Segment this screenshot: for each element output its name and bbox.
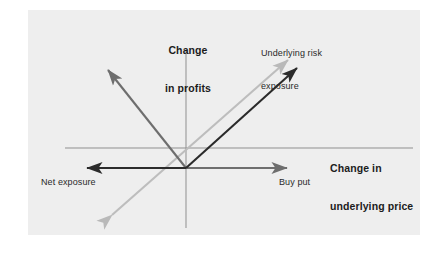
vertical-axis-title: Change in profits — [152, 19, 224, 119]
underlying-risk-exposure-label-line1: Underlying risk — [261, 48, 322, 59]
figure-canvas: Change in profits Change in underlying p… — [0, 0, 440, 255]
horizontal-axis-title-line1: Change in — [330, 162, 413, 175]
horizontal-axis-title-line2: underlying price — [330, 200, 413, 213]
vertical-axis-title-line2: in profits — [152, 82, 224, 95]
horizontal-axis-title: Change in underlying price — [330, 137, 413, 237]
underlying-risk-exposure-label: Underlying risk exposure — [261, 26, 322, 114]
net-exposure-label: Net exposure — [41, 177, 96, 188]
underlying-risk-exposure-label-line2: exposure — [261, 81, 322, 92]
buy-put-label: Buy put — [279, 177, 310, 188]
vertical-axis-title-line1: Change — [152, 44, 224, 57]
